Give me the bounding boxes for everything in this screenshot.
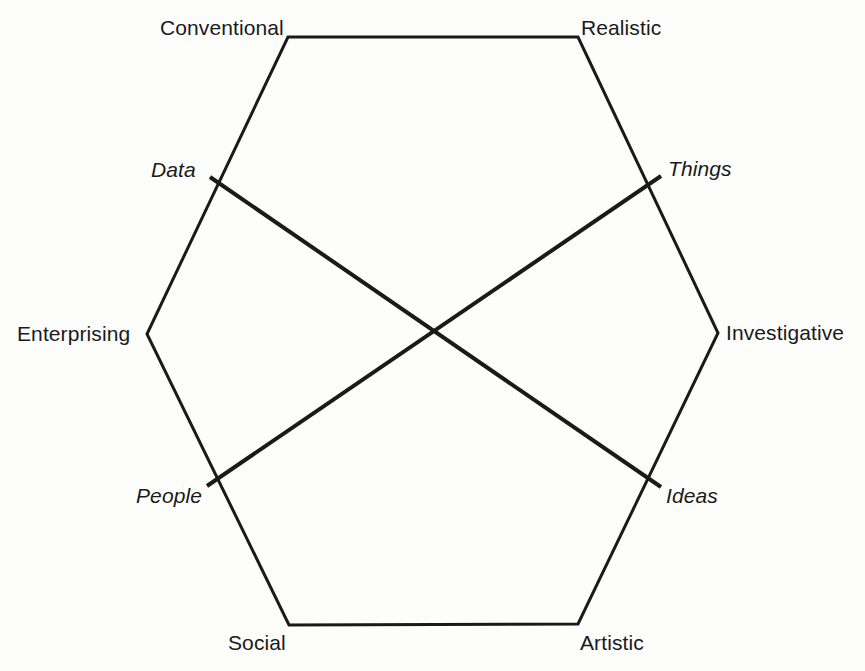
axis-label-data: Data	[151, 159, 196, 180]
axis-label-people: People	[136, 485, 202, 506]
vertex-label-artistic: Artistic	[580, 632, 644, 653]
axis-label-ideas: Ideas	[666, 485, 718, 506]
axis-label-things: Things	[668, 158, 732, 179]
vertex-label-enterprising: Enterprising	[17, 323, 130, 344]
hexagon-diagram: Conventional Realistic Investigative Art…	[0, 0, 865, 671]
vertex-label-social: Social	[228, 632, 286, 653]
vertex-label-investigative: Investigative	[726, 322, 844, 343]
vertex-label-realistic: Realistic	[581, 17, 661, 38]
vertex-label-conventional: Conventional	[160, 17, 284, 38]
